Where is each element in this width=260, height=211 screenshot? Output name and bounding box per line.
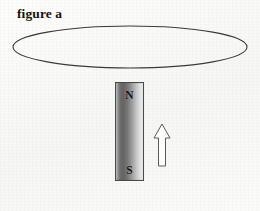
- motion-arrow-up-icon: [154, 124, 170, 166]
- figure-canvas: figure a N S: [0, 0, 260, 211]
- motion-arrow-svg: [0, 0, 260, 211]
